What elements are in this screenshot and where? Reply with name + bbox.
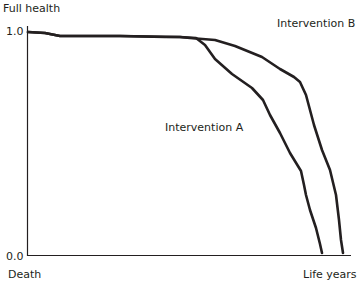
curve-intervention-a [28, 32, 322, 253]
curve-intervention-b [28, 32, 343, 253]
